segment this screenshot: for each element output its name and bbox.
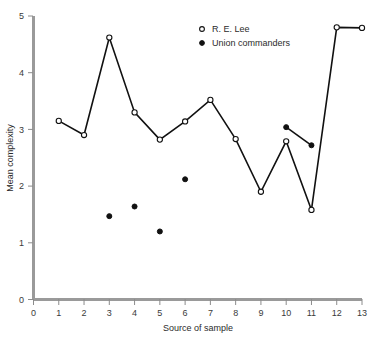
x-tick-label-2: 2 [82, 308, 87, 318]
x-tick-label-7: 7 [208, 308, 213, 318]
x-tick-label-9: 9 [258, 308, 263, 318]
y-tick-label-2: 2 [19, 181, 24, 191]
chart-figure: 012345 012345678910111213 Mean complexit… [0, 0, 391, 342]
data-point-r-e-lee-2 [81, 132, 86, 137]
series-markers [56, 25, 364, 234]
scatter-line-chart: 012345 012345678910111213 Mean complexit… [0, 0, 391, 342]
data-point-union-commanders-4 [132, 204, 137, 209]
x-tick-label-4: 4 [132, 308, 137, 318]
data-point-r-e-lee-12 [334, 25, 339, 30]
data-point-r-e-lee-5 [157, 137, 162, 142]
x-axis-title: Source of sample [163, 323, 233, 333]
data-point-union-commanders-6 [183, 177, 188, 182]
data-point-union-commanders-10 [284, 125, 289, 130]
x-tick-label-13: 13 [357, 308, 367, 318]
data-point-r-e-lee-3 [107, 35, 112, 40]
legend-marker-open-circle [200, 27, 205, 32]
data-point-r-e-lee-4 [132, 110, 137, 115]
y-axis-title: Mean complexity [5, 124, 15, 192]
data-point-r-e-lee-6 [183, 119, 188, 124]
data-point-union-commanders-5 [157, 229, 162, 234]
y-tick-label-1: 1 [19, 238, 24, 248]
y-tick-label-5: 5 [19, 11, 24, 21]
y-tick-label-0: 0 [19, 295, 24, 305]
data-point-r-e-lee-9 [258, 189, 263, 194]
x-tick-label-8: 8 [233, 308, 238, 318]
data-point-union-commanders-11 [309, 143, 314, 148]
data-point-r-e-lee-10 [284, 139, 289, 144]
data-point-r-e-lee-13 [359, 25, 364, 30]
legend-label-union: Union commanders [212, 38, 291, 48]
data-point-r-e-lee-11 [309, 207, 314, 212]
x-tick-label-10: 10 [281, 308, 291, 318]
x-tick-label-6: 6 [183, 308, 188, 318]
y-axis-tick-labels: 012345 [19, 11, 24, 305]
data-point-union-commanders-3 [107, 214, 112, 219]
y-tick-label-4: 4 [19, 68, 24, 78]
series-line-r-e-lee [59, 27, 362, 210]
x-tick-label-1: 1 [56, 308, 61, 318]
chart-legend: R. E. Lee Union commanders [200, 24, 291, 48]
x-tick-label-12: 12 [332, 308, 342, 318]
x-tick-label-5: 5 [157, 308, 162, 318]
x-tick-label-0: 0 [31, 308, 36, 318]
legend-marker-filled-circle [200, 41, 205, 46]
x-tick-label-3: 3 [107, 308, 112, 318]
data-point-r-e-lee-1 [56, 118, 61, 123]
figure-caption-cropped [6, 335, 386, 342]
series-polylines [59, 27, 362, 210]
x-tick-label-11: 11 [307, 308, 316, 318]
data-point-r-e-lee-7 [208, 97, 213, 102]
legend-label-lee: R. E. Lee [212, 24, 250, 34]
x-axis-tick-labels: 012345678910111213 [31, 308, 367, 318]
y-tick-label-3: 3 [19, 125, 24, 135]
data-point-r-e-lee-8 [233, 136, 238, 141]
series-segment-union-commanders [286, 127, 311, 145]
